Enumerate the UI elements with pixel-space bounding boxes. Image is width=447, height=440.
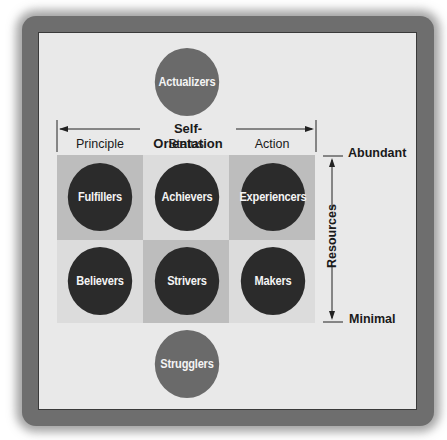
column-label-action: Action <box>229 137 315 151</box>
h-axis-right-arrowhead <box>305 126 314 132</box>
column-label-principle: Principle <box>57 137 143 151</box>
axis-arrows <box>0 0 447 440</box>
abundant-label: Abundant <box>348 146 406 160</box>
h-axis-left-arrowhead <box>59 126 68 132</box>
v-axis-bottom-arrowhead <box>329 311 335 320</box>
minimal-label: Minimal <box>349 312 396 326</box>
column-label-status: Status <box>143 137 229 151</box>
v-axis-top-arrowhead <box>329 158 335 167</box>
resources-label: Resources <box>325 208 339 268</box>
